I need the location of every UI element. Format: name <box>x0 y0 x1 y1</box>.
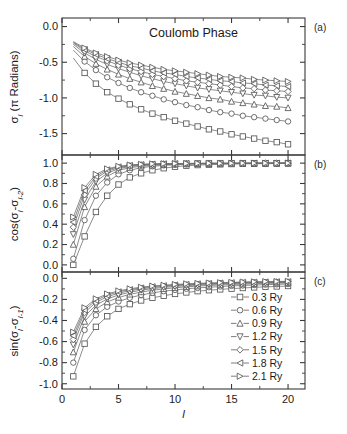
legend-label: 1.8 Ry <box>252 357 283 369</box>
y-tick-label: 0.6 <box>43 198 58 210</box>
marker-circle <box>172 99 177 104</box>
marker-square <box>93 81 98 86</box>
marker-triangle-down <box>237 334 243 340</box>
y-tick-label: 0.0 <box>43 259 58 271</box>
y-tick-label: -0.4 <box>39 314 58 326</box>
marker-circle <box>105 75 110 80</box>
marker-square <box>127 102 132 107</box>
marker-square <box>138 298 143 303</box>
marker-square <box>285 142 290 147</box>
x-axis-title: l <box>182 408 185 420</box>
y-tick-label: -1.0 <box>39 92 58 104</box>
marker-triangle-up <box>127 76 133 82</box>
y-tick-label: 0.2 <box>43 238 58 250</box>
y-tick-label: 0.0 <box>43 272 58 284</box>
marker-square <box>127 301 132 306</box>
legend-item-2-1-ry[interactable]: 2.1 Ry <box>231 370 283 382</box>
marker-diamond <box>237 347 244 354</box>
y-axis-title-b: cos(σl-σl-2) <box>8 187 25 241</box>
legend-item-0-6-ry[interactable]: 0.6 Ry <box>231 304 283 316</box>
series-0-3-ry <box>71 161 291 268</box>
y-tick-label: -0.5 <box>39 56 58 68</box>
marker-square <box>105 193 110 198</box>
y-axis-title-c: sin(σl-σl-1) <box>8 305 25 356</box>
marker-circle <box>229 111 234 116</box>
y-tick-label: -0.6 <box>39 335 58 347</box>
marker-circle <box>82 217 87 222</box>
marker-circle <box>150 93 155 98</box>
plot-annotation: Coulomb Phase <box>149 26 238 40</box>
legend-label: 1.5 Ry <box>252 344 283 356</box>
x-tick-label: 20 <box>282 393 294 405</box>
marker-square <box>251 136 256 141</box>
x-tick-label: 10 <box>169 393 181 405</box>
marker-square <box>161 114 166 119</box>
marker-circle <box>116 80 121 85</box>
marker-triangle-up <box>138 79 144 85</box>
series-line <box>73 163 288 244</box>
panel-label-3: (c) <box>314 276 326 287</box>
marker-circle <box>240 113 245 118</box>
marker-square <box>116 182 121 187</box>
marker-square <box>172 118 177 123</box>
legend-label: 0.9 Ry <box>252 317 283 329</box>
legend: 0.3 Ry0.6 Ry0.9 Ry1.2 Ry1.5 Ry1.8 Ry2.1 … <box>231 291 283 382</box>
marker-circle <box>93 193 98 198</box>
legend-label: 0.3 Ry <box>252 291 283 303</box>
marker-square <box>218 129 223 134</box>
marker-square <box>138 107 143 112</box>
y-tick-label: 0.4 <box>43 218 58 230</box>
marker-circle <box>71 360 76 365</box>
figure-canvas: 0.0-0.5-1.0-1.5(a)1.00.80.60.40.20.0(b)0… <box>0 0 347 434</box>
marker-triangle-up <box>70 349 76 355</box>
marker-square <box>82 341 87 346</box>
marker-square <box>237 294 243 300</box>
marker-square <box>195 124 200 129</box>
y-axis-title-a: σl (π Radians) <box>8 50 25 123</box>
legend-item-1-5-ry[interactable]: 1.5 Ry <box>231 344 283 356</box>
x-tick-label: 5 <box>115 393 121 405</box>
marker-square <box>263 138 268 143</box>
legend-label: 2.1 Ry <box>252 370 283 382</box>
marker-circle <box>184 102 189 107</box>
marker-circle <box>237 307 243 313</box>
marker-circle <box>138 90 143 95</box>
legend-item-1-2-ry[interactable]: 1.2 Ry <box>231 330 283 342</box>
marker-circle <box>195 104 200 109</box>
legend-item-1-8-ry[interactable]: 1.8 Ry <box>231 357 283 369</box>
y-tick-label: 0.0 <box>43 20 58 32</box>
legend-item-0-3-ry[interactable]: 0.3 Ry <box>231 291 283 303</box>
y-tick-label: -0.2 <box>39 293 58 305</box>
marker-triangle-up <box>237 320 243 326</box>
marker-circle <box>127 85 132 90</box>
marker-square <box>71 262 76 267</box>
marker-square <box>240 134 245 139</box>
marker-circle <box>218 109 223 114</box>
panel-2: 1.00.80.60.40.20.0(b) <box>43 155 327 272</box>
marker-square <box>93 324 98 329</box>
y-tick-label: 0.8 <box>43 177 58 189</box>
marker-circle <box>93 67 98 72</box>
marker-circle <box>285 119 290 124</box>
marker-square <box>206 127 211 132</box>
marker-square <box>116 306 121 311</box>
marker-square <box>105 314 110 319</box>
marker-square <box>150 111 155 116</box>
marker-square <box>105 90 110 95</box>
panel-label-2: (b) <box>314 159 326 170</box>
marker-square <box>82 70 87 75</box>
y-tick-label: -0.8 <box>39 356 58 368</box>
marker-circle <box>206 107 211 112</box>
legend-label: 0.6 Ry <box>252 304 283 316</box>
marker-circle <box>251 114 256 119</box>
marker-circle <box>263 116 268 121</box>
y-tick-label: 1.0 <box>43 157 58 169</box>
marker-square <box>127 175 132 180</box>
marker-circle <box>71 256 76 261</box>
x-tick-label: 0 <box>59 393 65 405</box>
marker-square <box>138 171 143 176</box>
marker-triangle-right <box>237 373 243 379</box>
legend-item-0-9-ry[interactable]: 0.9 Ry <box>231 317 283 329</box>
marker-circle <box>82 327 87 332</box>
legend-label: 1.2 Ry <box>252 330 283 342</box>
